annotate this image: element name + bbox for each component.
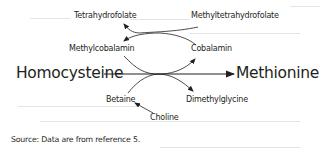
source-note: Source: Data are from reference 5. (11, 135, 140, 144)
node-methionine: Methionine (236, 64, 319, 82)
node-methyltetrahydrofolate: Methyltetrahydrofolate (191, 11, 279, 20)
node-cobalamin: Cobalamin (191, 44, 232, 53)
node-betaine: Betaine (106, 95, 135, 104)
homocysteine-metabolism-diagram: Tetrahydrofolate Methyltetrahydrofolate … (0, 0, 326, 158)
node-methylcobalamin: Methylcobalamin (69, 44, 134, 53)
node-dimethylglycine: Dimethylglycine (186, 95, 248, 104)
node-tetrahydrofolate: Tetrahydrofolate (74, 11, 136, 20)
node-homocysteine: Homocysteine (16, 64, 123, 82)
node-choline: Choline (150, 113, 179, 122)
